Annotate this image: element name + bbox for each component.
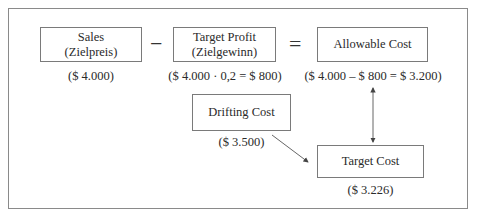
drifting-to-target-arrow [272, 135, 308, 162]
connector-arrows [0, 0, 477, 218]
